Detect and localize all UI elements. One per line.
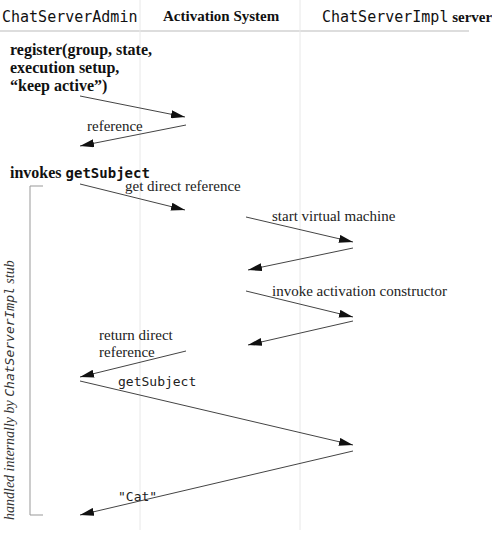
message-label-cat: "Cat" xyxy=(118,489,157,504)
note-class: ChatServerImpl xyxy=(2,287,17,397)
stub-bracket-note: handled internally by ChatServerImpl stu… xyxy=(2,260,18,520)
message-label-get-direct-reference: get direct reference xyxy=(125,178,241,195)
register-line-2: execution setup, xyxy=(10,59,152,77)
message-label-reference: reference xyxy=(87,118,143,135)
register-line-3: “keep active”) xyxy=(10,77,152,95)
column-header-activation-system: Activation System xyxy=(163,8,279,25)
stub-bracket xyxy=(30,186,43,515)
column-header-suffix: server xyxy=(448,9,492,25)
column-header-class-name: ChatServerImpl xyxy=(322,8,448,26)
message-arrow-1 xyxy=(80,96,185,117)
note-prefix: handled internally by xyxy=(2,397,17,520)
message-label-invoke-activation-constructor: invoke activation constructor xyxy=(272,283,447,300)
column-header-chatserverimpl-server: ChatServerImpl server xyxy=(322,8,492,26)
message-label-start-virtual-machine: start virtual machine xyxy=(272,208,395,225)
column-header-chatserveradmin: ChatServerAdmin xyxy=(2,8,137,26)
message-arrow-9 xyxy=(80,381,353,445)
note-suffix: stub xyxy=(2,260,17,287)
register-line-1: register(group, state, xyxy=(10,41,152,59)
message-arrows xyxy=(80,96,353,515)
return-line-1: return direct xyxy=(99,327,173,344)
register-call-label: register(group, state, execution setup, … xyxy=(10,41,152,95)
return-line-2: reference xyxy=(99,344,173,361)
invokes-prefix: invokes xyxy=(10,164,66,181)
message-label-getsubject: getSubject xyxy=(118,374,196,389)
message-label-return-direct-reference: return direct reference xyxy=(99,327,173,361)
message-arrow-10 xyxy=(80,451,353,515)
